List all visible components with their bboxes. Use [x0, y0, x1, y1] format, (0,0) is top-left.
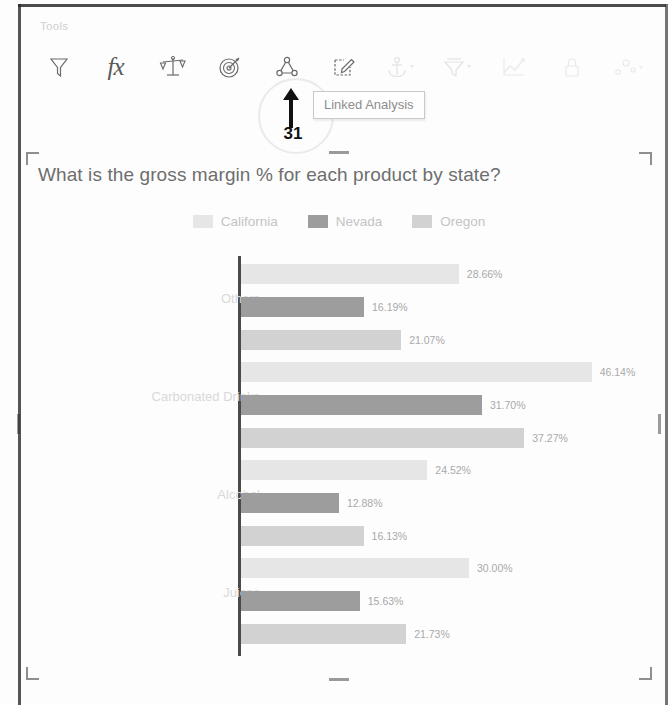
bar-oregon[interactable]	[241, 330, 401, 350]
bar-row[interactable]: 21.07%	[241, 330, 445, 350]
scanned-page: Tools fx	[0, 0, 668, 705]
bar-value-label: 21.07%	[409, 334, 445, 346]
bar-california[interactable]	[241, 460, 427, 480]
legend-label-california: California	[221, 214, 278, 229]
dashboard-panel: What is the gross margin % for each prod…	[26, 152, 652, 680]
tools-group-label: Tools	[40, 20, 68, 32]
balance-scales-icon[interactable]	[144, 45, 201, 89]
page-title: What is the gross margin % for each prod…	[38, 164, 501, 186]
bar-value-label: 15.63%	[368, 595, 404, 607]
bar-row[interactable]: 16.19%	[241, 297, 408, 317]
bar-row[interactable]: 24.52%	[241, 460, 471, 480]
edit-pencil-icon[interactable]	[315, 45, 372, 89]
tooltip: Linked Analysis	[313, 91, 425, 119]
bar-california[interactable]	[241, 558, 469, 578]
bar-nevada[interactable]	[241, 591, 360, 611]
bar-row[interactable]: 28.66%	[241, 264, 502, 284]
lock-icon[interactable]	[543, 45, 600, 89]
panel-corner-bottom-left	[26, 667, 39, 680]
bar-nevada[interactable]	[241, 297, 364, 317]
legend-swatch-nevada	[308, 215, 328, 228]
panel-resize-handle-top[interactable]	[329, 151, 349, 154]
bar-california[interactable]	[241, 264, 459, 284]
panel-resize-handle-right[interactable]	[658, 414, 661, 434]
panel-resize-handle-bottom[interactable]	[329, 678, 349, 681]
bar-value-label: 24.52%	[435, 464, 471, 476]
bar-nevada[interactable]	[241, 395, 482, 415]
bar-value-label: 16.19%	[372, 301, 408, 313]
filter-icon[interactable]	[30, 45, 87, 89]
legend-item-oregon[interactable]: Oregon	[412, 214, 485, 229]
bar-value-label: 46.14%	[600, 366, 636, 378]
bar-nevada[interactable]	[241, 493, 339, 513]
bar-oregon[interactable]	[241, 526, 364, 546]
panel-resize-handle-left[interactable]	[17, 414, 20, 434]
legend-item-nevada[interactable]: Nevada	[308, 214, 383, 229]
bar-value-label: 31.70%	[490, 399, 526, 411]
bar-row[interactable]: 31.70%	[241, 395, 526, 415]
toolbar: fx	[30, 44, 666, 90]
tools-toolbar-region: Tools fx	[22, 8, 666, 148]
trend-line-icon[interactable]	[486, 45, 543, 89]
bar-value-label: 37.27%	[532, 432, 568, 444]
bar-california[interactable]	[241, 362, 592, 382]
linked-analysis-icon[interactable]	[258, 45, 315, 89]
bar-value-label: 28.66%	[467, 268, 503, 280]
panel-corner-bottom-right	[639, 667, 652, 680]
bar-row[interactable]: 21.73%	[241, 624, 450, 644]
bar-value-label: 21.73%	[414, 628, 450, 640]
grouped-bar-chart: Others28.66%16.19%21.07%Carbonated Drink…	[26, 256, 652, 662]
bar-oregon[interactable]	[241, 624, 406, 644]
bar-value-label: 12.88%	[347, 497, 383, 509]
bar-value-label: 30.00%	[477, 562, 513, 574]
legend-label-oregon: Oregon	[440, 214, 485, 229]
chart-legend: CaliforniaNevadaOregon	[26, 214, 652, 229]
legend-item-california[interactable]: California	[193, 214, 278, 229]
legend-label-nevada: Nevada	[336, 214, 383, 229]
bar-row[interactable]: 12.88%	[241, 493, 383, 513]
legend-swatch-california	[193, 215, 213, 228]
bar-oregon[interactable]	[241, 428, 524, 448]
bar-row[interactable]: 15.63%	[241, 591, 403, 611]
bar-row[interactable]: 16.13%	[241, 526, 407, 546]
bar-row[interactable]: 46.14%	[241, 362, 635, 382]
bar-row[interactable]: 30.00%	[241, 558, 513, 578]
panel-corner-top-right	[639, 152, 652, 165]
step-number-badge: 31	[272, 124, 314, 144]
target-icon[interactable]	[201, 45, 258, 89]
function-icon[interactable]: fx	[87, 45, 144, 89]
bar-row[interactable]: 37.27%	[241, 428, 568, 448]
bar-value-label: 16.13%	[372, 530, 408, 542]
legend-swatch-oregon	[412, 215, 432, 228]
anchor-icon[interactable]	[372, 45, 429, 89]
scatter-icon[interactable]	[600, 45, 657, 89]
drill-icon[interactable]	[429, 45, 486, 89]
